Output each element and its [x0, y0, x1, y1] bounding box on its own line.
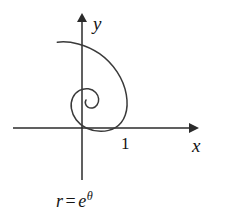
spiral-curve-path: [57, 42, 127, 131]
caption-base: e: [78, 191, 87, 211]
spiral-plot-svg: [0, 0, 227, 223]
caption-variable: r: [56, 191, 64, 211]
caption-operator: =: [64, 191, 79, 211]
caption-exponent: θ: [87, 189, 94, 203]
equation-caption: r=eθ: [56, 191, 93, 212]
y-axis: [77, 13, 87, 180]
x-axis-arrow-icon: [189, 123, 199, 133]
y-axis-arrow-icon: [77, 13, 87, 22]
